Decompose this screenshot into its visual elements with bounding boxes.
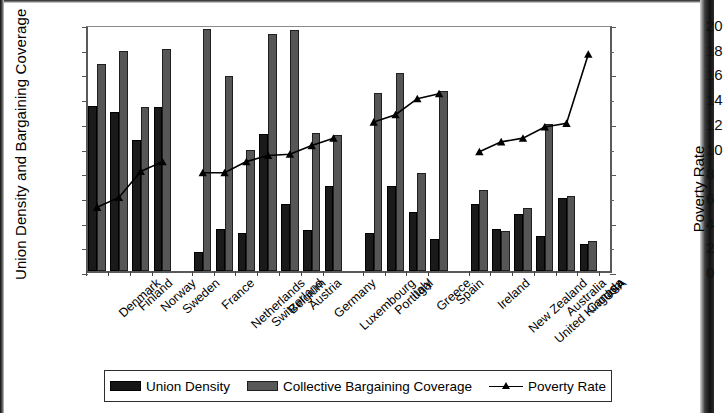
y-axis-left-tick [82, 249, 88, 250]
legend-swatch-union-density [110, 381, 141, 391]
poverty-rate-marker [329, 134, 337, 142]
y-axis-right-label: 20 [706, 17, 727, 34]
poverty-rate-line [479, 54, 588, 152]
y-axis-right-label: 4 [706, 215, 727, 232]
y-axis-left-tick [82, 52, 88, 53]
scan-edge-left [0, 0, 4, 413]
legend-swatch-collective-bargaining-coverage [247, 381, 278, 391]
y-axis-right-label: 14 [706, 91, 727, 108]
poverty-rate-marker [584, 50, 592, 58]
y-axis-title-left-text: Union Density and Bargaining Coverage [12, 12, 29, 280]
y-axis-left-tick [82, 27, 88, 28]
y-axis-right-tick [610, 175, 616, 176]
y-axis-right-tick [610, 101, 614, 102]
y-axis-right-label: 18 [706, 42, 727, 59]
x-axis-labels: DenmarkFinlandNorwaySwedenFranceNetherla… [86, 276, 626, 358]
poverty-rate-marker [137, 168, 145, 176]
y-axis-right-label: 0 [706, 264, 727, 281]
y-axis-right-tick [610, 249, 614, 250]
legend-item-union-density: Union Density [110, 379, 230, 394]
x-axis-label: France [219, 276, 257, 312]
poverty-rate-marker [435, 90, 443, 98]
y-axis-left-tick [82, 101, 88, 102]
y-axis-right-label: 6 [706, 190, 727, 207]
y-axis-right-tick [610, 27, 616, 28]
figure: Union Density and Bargaining Coverage Po… [6, 4, 700, 409]
legend-item-poverty-rate: Poverty Rate [489, 379, 606, 394]
y-axis-left-tick [82, 151, 88, 152]
legend-label-poverty-rate: Poverty Rate [528, 379, 606, 394]
poverty-rate-marker [475, 148, 483, 156]
y-axis-right-label: 2 [706, 239, 727, 256]
poverty-rate-line-layer [88, 27, 614, 274]
legend-label-collective-bargaining-coverage: Collective Bargaining Coverage [283, 379, 472, 394]
y-axis-right-label: 10 [706, 141, 727, 158]
poverty-rate-line [374, 94, 439, 122]
y-axis-left-tick [82, 225, 88, 226]
y-axis-right-label: 16 [706, 66, 727, 83]
plot-area: 010203040506070809010002468101214161820 [86, 26, 612, 273]
y-axis-right-label: 8 [706, 165, 727, 182]
y-axis-left-tick [82, 200, 88, 201]
poverty-rate-marker [93, 203, 101, 211]
scan-edge-top [0, 0, 714, 3]
chart-legend: Union Density Collective Bargaining Cove… [104, 370, 612, 402]
y-axis-right-tick [610, 151, 614, 152]
y-axis-title-left: Union Density and Bargaining Coverage [12, 0, 34, 12]
y-axis-right-tick [610, 225, 616, 226]
y-axis-right-tick [610, 76, 616, 77]
y-axis-title-right-text: Poverty Rate [690, 114, 707, 264]
y-axis-right-tick [610, 200, 614, 201]
legend-label-union-density: Union Density [146, 379, 230, 394]
y-axis-left-tick [82, 76, 88, 77]
poverty-rate-line [97, 162, 162, 208]
x-axis-label: Ireland [495, 276, 533, 312]
y-axis-right-label: 12 [706, 116, 727, 133]
legend-line-marker-icon [489, 381, 523, 391]
y-axis-right-tick [610, 52, 614, 53]
y-axis-right-tick [610, 126, 616, 127]
y-axis-left-tick [82, 126, 88, 127]
y-axis-right-tick [610, 274, 616, 275]
y-axis-left-tick [82, 274, 88, 275]
legend-item-collective-bargaining-coverage: Collective Bargaining Coverage [247, 379, 472, 394]
y-axis-left-tick [82, 175, 88, 176]
poverty-rate-marker [158, 158, 166, 166]
